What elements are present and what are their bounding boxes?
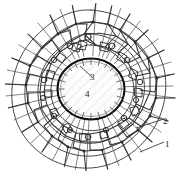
callout-label-4: 4 bbox=[85, 90, 90, 99]
callout-label-3: 3 bbox=[90, 73, 95, 82]
callout-label-2: 2 bbox=[163, 117, 168, 126]
diagram-canvas bbox=[0, 0, 181, 178]
figure-container: 1 2 3 4 bbox=[0, 0, 181, 178]
callout-label-1: 1 bbox=[165, 140, 170, 149]
